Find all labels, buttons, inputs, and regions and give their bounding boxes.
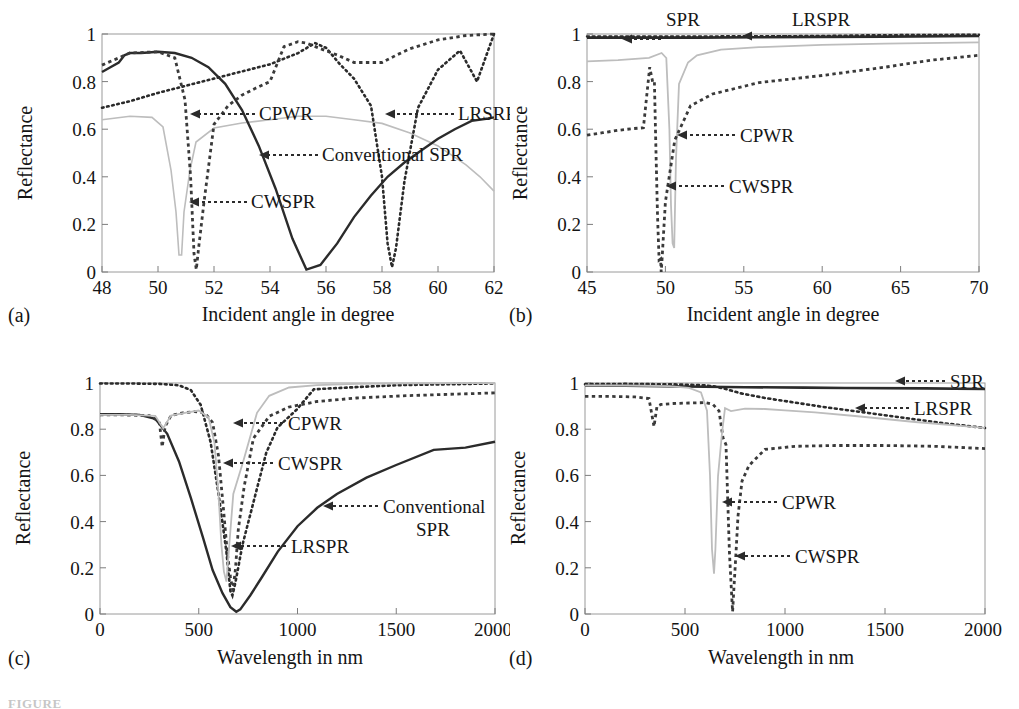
xtick-60: 60 bbox=[429, 277, 448, 298]
ytick-1: 1 bbox=[85, 373, 95, 394]
xtick-52: 52 bbox=[205, 277, 224, 298]
ytick-06: 0.6 bbox=[557, 119, 581, 140]
panel-b: SPR LRSPR CPWR CWSPR 45 50 55 60 65 70 0… bbox=[509, 0, 1019, 355]
ytick-1: 1 bbox=[572, 24, 582, 45]
curve-cpwr bbox=[102, 116, 494, 255]
figure-root: CPWR LRSRR Conventional SPR CWSPR 48 50 … bbox=[0, 0, 1019, 709]
xtick-1500: 1500 bbox=[866, 619, 904, 640]
ytick-0: 0 bbox=[85, 604, 95, 625]
ytick-1: 1 bbox=[570, 373, 580, 394]
xtick-500: 500 bbox=[185, 619, 214, 640]
panel-c-ylabel: Reflectance bbox=[12, 451, 34, 545]
xtick-60: 60 bbox=[813, 277, 832, 298]
ytick-0: 0 bbox=[87, 262, 97, 283]
xtick-0: 0 bbox=[580, 619, 590, 640]
panel-a-tag: (a) bbox=[8, 304, 30, 327]
ytick-08: 0.8 bbox=[72, 72, 96, 93]
panel-d-xlabel: Wavelength in nm bbox=[708, 646, 855, 669]
panel-c-svg: CPWR CWSPR Conventional SPR LRSPR 0 500 … bbox=[0, 350, 510, 709]
panel-d-annotations: SPR LRSPR CPWR CWSPR bbox=[722, 371, 984, 567]
ytick-04: 0.4 bbox=[70, 512, 94, 533]
label-spr: SPR bbox=[666, 9, 700, 30]
panel-d-xticklabels: 0 500 1000 1500 2000 bbox=[580, 619, 1002, 640]
panel-b-xticklabels: 45 50 55 60 65 70 bbox=[578, 277, 989, 298]
xtick-50: 50 bbox=[149, 277, 168, 298]
xtick-65: 65 bbox=[891, 277, 910, 298]
panel-c-tag: (c) bbox=[8, 647, 30, 670]
ytick-08: 0.8 bbox=[555, 419, 579, 440]
panel-a-svg: CPWR LRSRR Conventional SPR CWSPR 48 50 … bbox=[0, 0, 510, 355]
figure-caption: FIGURE bbox=[8, 697, 1019, 709]
ytick-0: 0 bbox=[572, 262, 582, 283]
ytick-02: 0.2 bbox=[555, 558, 579, 579]
xtick-500: 500 bbox=[671, 619, 700, 640]
label-cpwr: CPWR bbox=[288, 413, 342, 434]
label-cpwr: CPWR bbox=[259, 103, 313, 124]
ytick-06: 0.6 bbox=[70, 465, 94, 486]
panel-a-xlabel: Incident angle in degree bbox=[202, 303, 395, 326]
label-lrspr: LRSPR bbox=[792, 9, 850, 30]
label-lrspr: LRSRR bbox=[458, 103, 510, 124]
panel-d-yticklabels: 0 0.2 0.4 0.6 0.8 1 bbox=[555, 373, 579, 625]
ytick-08: 0.8 bbox=[557, 72, 581, 93]
xtick-1000: 1000 bbox=[279, 619, 317, 640]
ytick-1: 1 bbox=[87, 24, 97, 45]
label-conventional-spr-line1: Conventional bbox=[383, 496, 485, 517]
ytick-0: 0 bbox=[570, 604, 580, 625]
xtick-58: 58 bbox=[373, 277, 392, 298]
label-lrspr: LRSPR bbox=[914, 398, 972, 419]
panel-b-tag: (b) bbox=[509, 304, 532, 327]
label-cwspr: CWSPR bbox=[278, 453, 343, 474]
arrowhead-lrspr bbox=[742, 32, 752, 41]
xtick-62: 62 bbox=[485, 277, 504, 298]
panel-d: SPR LRSPR CPWR CWSPR 0 500 1000 1500 200… bbox=[509, 350, 1019, 709]
arrowhead-lrspr bbox=[385, 110, 395, 119]
arrowhead-cpwr bbox=[190, 110, 200, 119]
ytick-02: 0.2 bbox=[72, 214, 96, 235]
panel-a-xticklabels: 48 50 52 54 56 58 60 62 bbox=[93, 277, 504, 298]
label-cpwr: CPWR bbox=[782, 492, 836, 513]
panel-c-xticklabels: 0 500 1000 1500 2000 bbox=[95, 619, 510, 640]
panel-a-yticklabels: 0 0.2 0.4 0.6 0.8 1 bbox=[72, 24, 96, 283]
xtick-54: 54 bbox=[261, 277, 281, 298]
label-cwspr: CWSPR bbox=[795, 546, 860, 567]
panel-b-xlabel: Incident angle in degree bbox=[687, 303, 880, 326]
ytick-02: 0.2 bbox=[70, 558, 94, 579]
arrowhead-cwspr bbox=[223, 459, 233, 468]
xtick-70: 70 bbox=[970, 277, 989, 298]
panel-a-ylabel: Reflectance bbox=[14, 106, 36, 200]
figure-caption-strip: FIGURE bbox=[0, 697, 1019, 709]
ytick-06: 0.6 bbox=[555, 465, 579, 486]
arrowhead-spr bbox=[895, 377, 905, 386]
xtick-56: 56 bbox=[317, 277, 336, 298]
panel-a: CPWR LRSRR Conventional SPR CWSPR 48 50 … bbox=[0, 0, 510, 355]
panel-b-curves bbox=[587, 35, 979, 272]
xtick-0: 0 bbox=[95, 619, 105, 640]
panel-c: CPWR CWSPR Conventional SPR LRSPR 0 500 … bbox=[0, 350, 510, 709]
panel-b-yticklabels: 0 0.2 0.4 0.6 0.8 1 bbox=[557, 24, 581, 283]
xtick-55: 55 bbox=[734, 277, 753, 298]
panel-b-svg: SPR LRSPR CPWR CWSPR 45 50 55 60 65 70 0… bbox=[509, 0, 1019, 355]
panel-d-ylabel: Reflectance bbox=[509, 451, 529, 545]
ytick-04: 0.4 bbox=[557, 167, 581, 188]
panel-c-xlabel: Wavelength in nm bbox=[217, 646, 364, 669]
label-conventional-spr-line2: SPR bbox=[416, 519, 450, 540]
label-lrspr: LRSPR bbox=[291, 536, 349, 557]
xtick-2000: 2000 bbox=[964, 619, 1002, 640]
xtick-2000: 2000 bbox=[474, 619, 510, 640]
panel-d-tag: (d) bbox=[509, 647, 532, 670]
panel-b-ylabel: Reflectance bbox=[509, 106, 531, 200]
panel-c-yticklabels: 0 0.2 0.4 0.6 0.8 1 bbox=[70, 373, 94, 625]
ytick-08: 0.8 bbox=[70, 419, 94, 440]
label-cwspr: CWSPR bbox=[729, 176, 794, 197]
ytick-04: 0.4 bbox=[72, 167, 96, 188]
ytick-02: 0.2 bbox=[557, 214, 581, 235]
panel-d-svg: SPR LRSPR CPWR CWSPR 0 500 1000 1500 200… bbox=[509, 350, 1019, 709]
label-spr: SPR bbox=[950, 371, 984, 392]
label-conventional-spr: Conventional SPR bbox=[322, 144, 463, 165]
label-cwspr: CWSPR bbox=[251, 191, 316, 212]
label-cpwr: CPWR bbox=[740, 125, 794, 146]
xtick-1000: 1000 bbox=[766, 619, 804, 640]
xtick-50: 50 bbox=[656, 277, 675, 298]
xtick-1500: 1500 bbox=[377, 619, 415, 640]
